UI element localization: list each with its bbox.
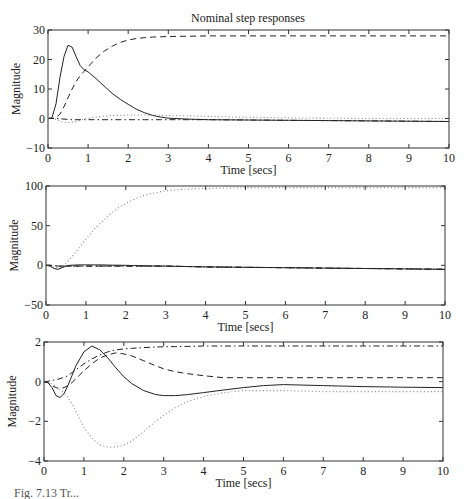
y-tick-label: −2 (28, 414, 41, 428)
x-tick-label: 9 (400, 464, 406, 478)
y-tick-label: 50 (31, 219, 43, 233)
x-tick-label: 3 (163, 308, 169, 322)
figure: Nominal step responses 012345678910−1001… (0, 0, 464, 499)
series-dotted-line (46, 188, 445, 268)
x-tick-label: 0 (43, 308, 49, 322)
x-axis-label: Time [secs] (221, 163, 277, 177)
x-axis-label: Time [secs] (216, 476, 272, 490)
series-dashed-line (44, 353, 443, 389)
y-tick-label: 0 (37, 258, 43, 272)
x-tick-label: 4 (205, 151, 211, 165)
x-tick-label: 3 (165, 151, 171, 165)
x-tick-label: 10 (443, 151, 455, 165)
y-tick-label: 20 (33, 53, 45, 67)
y-tick-label: −50 (24, 298, 43, 312)
x-tick-label: 2 (125, 151, 131, 165)
series-dashdot-line (44, 346, 443, 382)
plot-panel-3: 012345678910−4−202Time [secs]Magnitude (5, 335, 449, 490)
y-tick-label: −4 (28, 454, 41, 468)
x-tick-label: 7 (320, 464, 326, 478)
x-tick-label: 8 (360, 464, 366, 478)
series-group (46, 188, 445, 270)
x-tick-label: 2 (123, 308, 129, 322)
y-tick-label: 10 (33, 82, 45, 96)
x-tick-label: 4 (203, 308, 209, 322)
y-axis-label: Magnitude (9, 63, 23, 115)
x-tick-label: 6 (280, 464, 286, 478)
series-dashed-line (48, 36, 449, 119)
x-tick-label: 6 (282, 308, 288, 322)
x-tick-label: 1 (85, 151, 91, 165)
x-tick-label: 7 (326, 151, 332, 165)
x-tick-label: 6 (286, 151, 292, 165)
x-tick-label: 2 (121, 464, 127, 478)
axes-box (48, 30, 449, 148)
series-dotted-line (44, 382, 443, 447)
y-tick-label: 0 (35, 375, 41, 389)
y-tick-label: 2 (35, 335, 41, 349)
axes-box (44, 342, 443, 461)
x-tick-label: 3 (161, 464, 167, 478)
y-tick-label: 0 (39, 112, 45, 126)
y-axis-label: Magnitude (5, 376, 19, 428)
x-tick-label: 8 (362, 308, 368, 322)
plot-panel-2: 012345678910−50050100Time [secs]Magnitud… (7, 179, 451, 334)
x-tick-label: 0 (41, 464, 47, 478)
x-tick-label: 10 (439, 308, 451, 322)
y-axis-label: Magnitude (7, 220, 21, 272)
y-tick-label: 30 (33, 23, 45, 37)
figure-caption: Fig. 7.13 Tr... (14, 486, 79, 499)
series-solid-line (44, 346, 443, 398)
series-group (48, 36, 449, 123)
axes-box (46, 186, 445, 305)
x-tick-label: 1 (81, 464, 87, 478)
series-group (44, 346, 443, 447)
x-tick-label: 0 (45, 151, 51, 165)
x-tick-label: 8 (366, 151, 372, 165)
y-tick-label: 100 (25, 179, 43, 193)
x-tick-label: 4 (201, 464, 207, 478)
x-tick-label: 7 (322, 308, 328, 322)
y-tick-label: −10 (26, 141, 45, 155)
x-tick-label: 9 (406, 151, 412, 165)
x-tick-label: 9 (402, 308, 408, 322)
x-tick-label: 10 (437, 464, 449, 478)
series-solid-line (48, 45, 449, 121)
x-axis-label: Time [secs] (218, 320, 274, 334)
figure-title: Nominal step responses (191, 11, 305, 25)
plot-panel-1: 012345678910−100102030Time [secs]Magnitu… (9, 23, 455, 177)
x-tick-label: 1 (83, 308, 89, 322)
